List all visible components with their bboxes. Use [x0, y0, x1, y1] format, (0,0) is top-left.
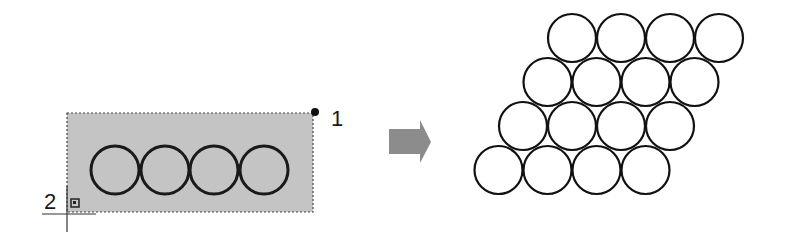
- result-circle: [622, 146, 670, 194]
- point-1-label: 1: [331, 108, 343, 130]
- result-circle: [597, 14, 645, 62]
- point-2-label: 2: [44, 191, 56, 213]
- result-circle: [548, 102, 596, 150]
- result-circle: [475, 146, 523, 194]
- result-circle: [524, 146, 572, 194]
- pick-point-1-marker: [311, 108, 319, 116]
- result-circle: [573, 58, 621, 106]
- result-circle: [597, 102, 645, 150]
- result-circle: [646, 102, 694, 150]
- right-arrow-icon: [389, 120, 431, 163]
- result-circle: [573, 146, 621, 194]
- source-selection: [42, 108, 319, 232]
- result-circle: [499, 102, 547, 150]
- array-diagram: [0, 0, 794, 240]
- result-circle: [671, 58, 719, 106]
- result-circle: [548, 14, 596, 62]
- result-circle: [646, 14, 694, 62]
- result-circle: [524, 58, 572, 106]
- result-circle: [695, 14, 743, 62]
- result-circle: [622, 58, 670, 106]
- result-array-circles: [475, 14, 744, 194]
